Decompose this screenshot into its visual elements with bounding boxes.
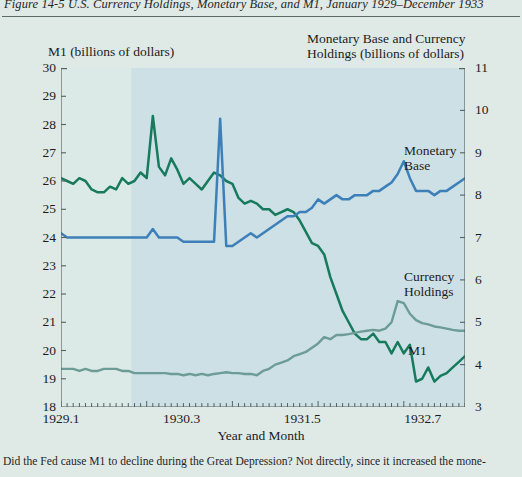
series-label-monetary-base: Monetary Base [404,144,456,173]
x-tick-label: 1930.3 [163,411,200,427]
series-label-monetary-base-line2: Base [404,159,456,174]
right-tick-label: 8 [475,188,482,202]
right-tick-label: 5 [475,315,482,329]
figure-caption: Did the Fed cause M1 to decline during t… [3,455,521,469]
left-tick-label: 23 [18,259,56,273]
left-tick-label: 30 [18,61,56,75]
plot-area [61,68,465,407]
left-tick-label: 28 [18,118,56,132]
right-axis-caption-line2: Holdings (billions of dollars) [307,46,466,61]
series-label-currency-holdings: Currency Holdings [404,270,454,299]
right-tick-label: 11 [475,61,488,75]
x-tick-label: 1932.7 [404,411,441,427]
chart-svg [61,68,465,407]
left-axis-caption: M1 (billions of dollars) [48,44,174,60]
left-tick-label: 19 [18,372,56,386]
right-tick-label: 3 [475,400,482,414]
header-divider-rule [2,16,520,17]
figure-title: Figure 14-5 U.S. Currency Holdings, Mone… [4,0,518,12]
left-tick-label: 20 [18,344,56,358]
left-tick-label: 27 [18,146,56,160]
x-axis-title: Year and Month [0,428,522,444]
right-tick-label: 7 [475,231,482,245]
figure-root: Figure 14-5 U.S. Currency Holdings, Mone… [0,0,522,477]
left-tick-label: 25 [18,202,56,216]
left-tick-label: 29 [18,89,56,103]
series-label-m1: M1 [408,344,427,359]
series-label-monetary-base-line1: Monetary [404,144,456,159]
right-tick-label: 4 [475,358,482,372]
right-tick-label: 10 [475,103,489,117]
x-tick-label: 1931.5 [284,411,321,427]
right-tick-label: 6 [475,273,482,287]
left-tick-label: 24 [18,231,56,245]
left-tick-label: 22 [18,287,56,301]
left-tick-label: 21 [18,315,56,329]
series-label-currency-line2: Holdings [404,285,454,300]
right-axis-caption: Monetary Base and Currency Holdings (bil… [307,31,466,61]
left-tick-label: 26 [18,174,56,188]
right-axis-caption-line1: Monetary Base and Currency [307,31,466,46]
x-tick-label: 1929.1 [42,411,79,427]
series-label-currency-line1: Currency [404,270,454,285]
right-tick-label: 9 [475,146,482,160]
